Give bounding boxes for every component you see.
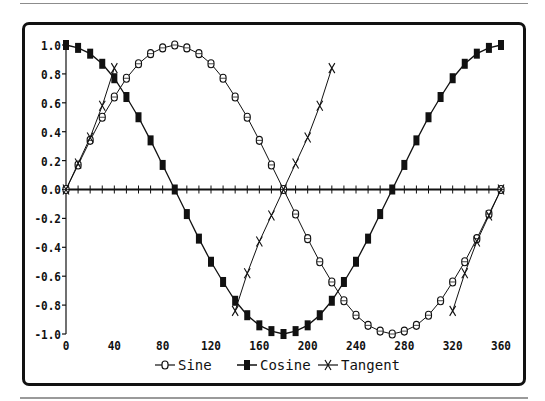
- y-tick-label: -1.0: [34, 327, 61, 342]
- legend-label: Cosine: [260, 357, 311, 373]
- legend-item-sine: Sine: [155, 357, 212, 373]
- legend: Sine Cosine Tangent: [155, 357, 400, 373]
- x-tick-label: 40: [108, 338, 121, 353]
- legend-item-tangent: Tangent: [318, 357, 400, 373]
- legend-label: Tangent: [341, 357, 400, 373]
- y-tick-label: -0.2: [34, 212, 61, 227]
- x-tick-label: 280: [394, 338, 414, 353]
- y-tick-label: 0.6: [41, 96, 61, 111]
- legend-label: Sine: [178, 357, 212, 373]
- circle-bar-marker-icon: [162, 361, 168, 369]
- x-tick-label: 120: [201, 338, 221, 353]
- y-tick-label: 1.0: [41, 38, 61, 53]
- y-tick-label: 0.8: [41, 67, 61, 82]
- y-tick-label: 0.4: [41, 125, 61, 140]
- y-tick-label: -0.6: [34, 269, 61, 284]
- x-tick-label: 320: [443, 338, 463, 353]
- x-tick-label: 80: [156, 338, 169, 353]
- y-tick-label: 0.0: [41, 183, 61, 198]
- y-tick-label: -0.8: [34, 298, 61, 313]
- y-tick-label: -0.4: [34, 240, 61, 255]
- x-tick-label: 160: [249, 338, 269, 353]
- filled-rect-marker-icon: [244, 360, 250, 370]
- x-tick-label: 240: [346, 338, 366, 353]
- line-chart: 1.00.80.60.40.20.0-0.2-0.4-0.6-0.8-1.004…: [0, 0, 545, 401]
- legend-item-cosine: Cosine: [237, 357, 311, 373]
- x-tick-label: 200: [298, 338, 318, 353]
- x-tick-label: 360: [491, 338, 511, 353]
- x-tick-label: 0: [63, 338, 70, 353]
- y-tick-label: 0.2: [41, 154, 61, 169]
- axes: 1.00.80.60.40.20.0-0.2-0.4-0.6-0.8-1.004…: [34, 38, 511, 353]
